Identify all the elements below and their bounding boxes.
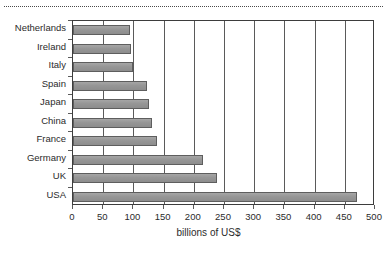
x-tick-label-150: 150 xyxy=(155,211,171,222)
bar-italy xyxy=(73,62,133,72)
x-tick-450 xyxy=(344,205,345,209)
x-tick-250 xyxy=(223,205,224,209)
y-axis-label-ireland: Ireland xyxy=(0,42,66,52)
y-axis-label-germany: Germany xyxy=(0,153,66,163)
x-tick-label-300: 300 xyxy=(245,211,261,222)
bar-row xyxy=(73,95,373,114)
x-tick-label-500: 500 xyxy=(366,211,382,222)
bar-row xyxy=(73,132,373,151)
x-tick-label-50: 50 xyxy=(97,211,108,222)
y-axis-label-netherlands: Netherlands xyxy=(0,23,66,33)
bar-china xyxy=(73,118,152,128)
bar-france xyxy=(73,136,157,146)
y-axis-category-labels: NetherlandsIrelandItalySpainJapanChinaFr… xyxy=(0,20,68,205)
x-tick-100 xyxy=(132,205,133,209)
y-axis-label-italy: Italy xyxy=(0,60,66,70)
x-tick-50 xyxy=(102,205,103,209)
x-tick-0 xyxy=(72,205,73,209)
x-tick-label-350: 350 xyxy=(275,211,291,222)
bar-row xyxy=(73,77,373,96)
bar-netherlands xyxy=(73,25,130,35)
x-tick-label-200: 200 xyxy=(185,211,201,222)
bar-row xyxy=(73,151,373,170)
x-tick-150 xyxy=(163,205,164,209)
x-tick-200 xyxy=(193,205,194,209)
y-axis-label-france: France xyxy=(0,134,66,144)
bar-japan xyxy=(73,99,149,109)
bar-row xyxy=(73,21,373,40)
bar-chart-figure: NetherlandsIrelandItalySpainJapanChinaFr… xyxy=(0,0,387,253)
bar-usa xyxy=(73,192,357,202)
x-tick-350 xyxy=(283,205,284,209)
x-tick-300 xyxy=(253,205,254,209)
plot-area xyxy=(72,20,374,205)
bar-germany xyxy=(73,155,203,165)
x-tick-500 xyxy=(374,205,375,209)
x-axis: billions of US$ 050100150200250300350400… xyxy=(0,205,387,253)
x-axis-title: billions of US$ xyxy=(0,227,387,238)
y-axis-label-china: China xyxy=(0,116,66,126)
y-axis-label-spain: Spain xyxy=(0,79,66,89)
x-tick-label-400: 400 xyxy=(306,211,322,222)
y-axis-label-usa: USA xyxy=(0,190,66,200)
x-tick-label-100: 100 xyxy=(124,211,140,222)
y-axis-label-uk: UK xyxy=(0,171,66,181)
bar-row xyxy=(73,114,373,133)
bar-row xyxy=(73,40,373,59)
x-tick-400 xyxy=(314,205,315,209)
x-tick-label-450: 450 xyxy=(336,211,352,222)
bar-row xyxy=(73,58,373,77)
bar-ireland xyxy=(73,44,131,54)
x-tick-label-0: 0 xyxy=(69,211,74,222)
bar-uk xyxy=(73,173,217,183)
x-tick-label-250: 250 xyxy=(215,211,231,222)
bar-row xyxy=(73,188,373,207)
bar-row xyxy=(73,169,373,188)
bar-spain xyxy=(73,81,147,91)
y-axis-label-japan: Japan xyxy=(0,97,66,107)
